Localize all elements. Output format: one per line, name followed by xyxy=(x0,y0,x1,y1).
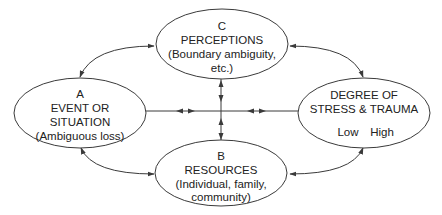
node-b-resources: B RESOURCES (Individual, family, communi… xyxy=(155,140,287,206)
node-d-stress: DEGREE OF STRESS & TRAUMA Low High xyxy=(298,78,430,148)
arrow-a-b xyxy=(81,148,154,174)
node-c-line4: etc.) xyxy=(211,62,234,74)
node-a-line3: SITUATION xyxy=(50,116,110,128)
node-d-scale-high: High xyxy=(370,126,394,138)
node-a-letter: A xyxy=(76,88,84,100)
node-b-line4: community) xyxy=(191,191,251,203)
node-c-perceptions: C PERCEPTIONS (Boundary ambiguity, etc.) xyxy=(156,9,288,79)
arrow-c-d xyxy=(290,46,363,77)
node-b-title: RESOURCES xyxy=(185,164,258,176)
arrow-b-d xyxy=(290,148,363,174)
node-c-line3: (Boundary ambiguity, xyxy=(168,48,276,60)
abc-x-model-diagram: C PERCEPTIONS (Boundary ambiguity, etc.)… xyxy=(0,0,442,215)
node-c-title: PERCEPTIONS xyxy=(181,34,264,46)
node-c-letter: C xyxy=(218,20,226,32)
node-a-line4: (Ambiguous loss) xyxy=(36,130,125,142)
node-a-title: EVENT OR xyxy=(51,102,110,114)
arrow-a-c xyxy=(80,46,154,77)
node-b-letter: B xyxy=(217,150,225,162)
node-d-line2: STRESS & TRAUMA xyxy=(310,103,419,115)
node-a-event: A EVENT OR SITUATION (Ambiguous loss) xyxy=(14,78,146,148)
node-d-scale-low: Low xyxy=(337,126,359,138)
node-d-title: DEGREE OF xyxy=(330,89,398,101)
node-b-line3: (Individual, family, xyxy=(175,178,266,190)
